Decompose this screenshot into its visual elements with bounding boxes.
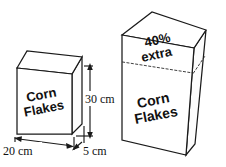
height-dim-label: 30 cm — [85, 92, 115, 106]
small-box-width-dimension: 20 cm — [2, 136, 74, 158]
width-dim-arrowhead-right — [66, 143, 74, 149]
large-box-group: 40% extra Corn Flakes — [122, 12, 206, 155]
cereal-box-diagram: Corn Flakes 30 cm 20 cm — [0, 0, 226, 167]
small-box-group: Corn Flakes — [17, 51, 82, 134]
figure-canvas: Corn Flakes 30 cm 20 cm — [0, 0, 226, 167]
depth-dim-label: 5 cm — [83, 144, 107, 158]
width-dim-label: 20 cm — [3, 144, 33, 158]
